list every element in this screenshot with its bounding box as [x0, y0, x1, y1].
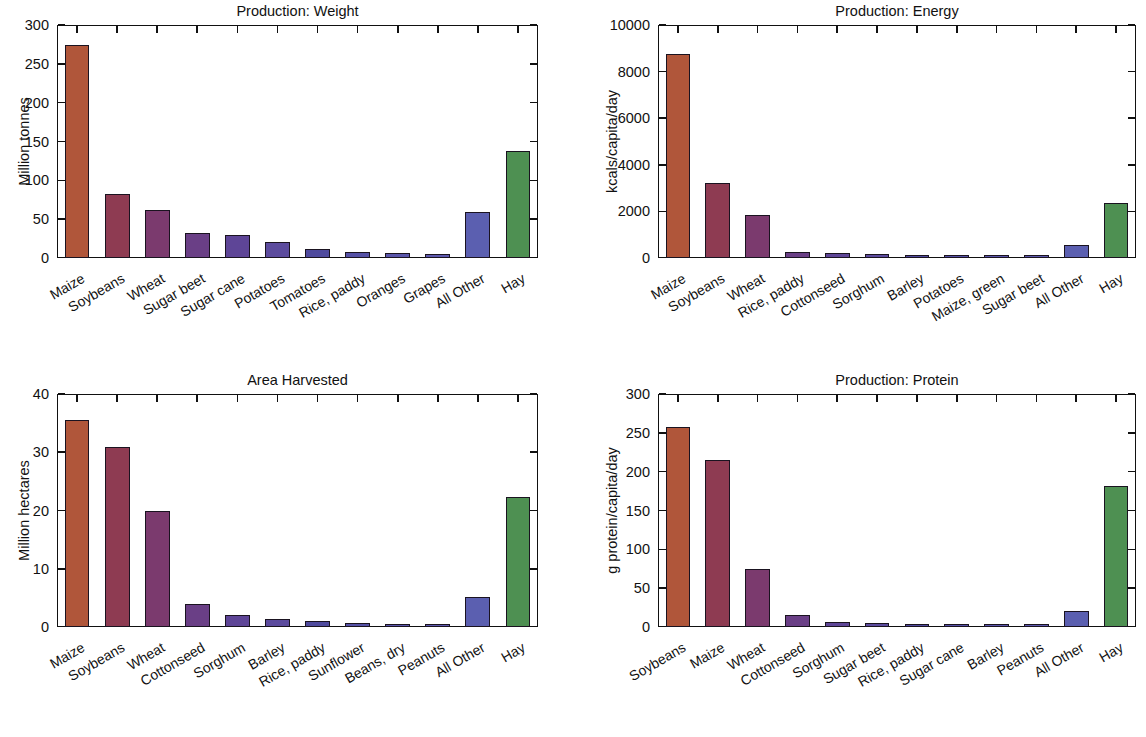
y-tick-mark-right	[1128, 471, 1135, 473]
y-tick-label: 250	[610, 425, 650, 441]
y-tick-label: 50	[610, 580, 650, 596]
x-tick-mark	[1075, 395, 1077, 402]
bar	[944, 624, 969, 627]
x-tick-mark	[1115, 395, 1117, 402]
bar	[984, 624, 1009, 627]
x-tick-mark	[797, 395, 799, 402]
x-tick-mark	[717, 395, 719, 402]
x-category-label: Maize	[687, 639, 727, 672]
bar	[1104, 486, 1129, 627]
bar	[666, 427, 691, 627]
x-category-label: Soybeans	[626, 639, 688, 684]
bar	[905, 624, 930, 627]
bar	[705, 460, 730, 627]
x-tick-mark	[996, 395, 998, 402]
y-tick-mark-right	[1128, 393, 1135, 395]
y-tick-label: 0	[610, 619, 650, 635]
chart-title: Production: Protein	[658, 372, 1136, 388]
y-tick-label: 100	[610, 541, 650, 557]
y-tick-label: 300	[610, 386, 650, 402]
bar	[825, 622, 850, 627]
bar	[1064, 611, 1089, 627]
y-tick-label: 200	[610, 464, 650, 480]
bar	[785, 615, 810, 627]
x-tick-mark	[677, 395, 679, 402]
chart-panel-production-protein: Production: Proteing protein/capita/day0…	[0, 0, 1146, 737]
x-tick-mark	[1036, 395, 1038, 402]
x-category-label: Hay	[1097, 639, 1127, 665]
y-tick-label: 150	[610, 503, 650, 519]
x-tick-mark	[757, 395, 759, 402]
figure-canvas: Production: WeightMillion tonnes05010015…	[0, 0, 1146, 737]
y-tick-mark	[659, 393, 666, 395]
x-tick-mark	[836, 395, 838, 402]
y-tick-mark-right	[1128, 549, 1135, 551]
y-tick-mark-right	[1128, 432, 1135, 434]
x-tick-mark	[916, 395, 918, 402]
y-tick-mark-right	[1128, 510, 1135, 512]
bar	[865, 623, 890, 627]
y-tick-mark-right	[1128, 587, 1135, 589]
bar	[1024, 624, 1049, 627]
bar	[745, 569, 770, 627]
x-tick-mark	[876, 395, 878, 402]
x-tick-mark	[956, 395, 958, 402]
